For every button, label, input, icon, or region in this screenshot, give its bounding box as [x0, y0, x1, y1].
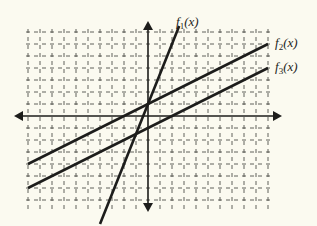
label-f1: f1(x): [176, 14, 199, 31]
function-labels: f1(x)f2(x)f3(x): [176, 14, 298, 76]
label-f3: f3(x): [275, 59, 298, 76]
label-f2: f2(x): [275, 35, 298, 52]
y-axis-up-arrow-icon: [143, 21, 153, 30]
x-axis-left-arrow-icon: [14, 111, 23, 121]
function-graph: f1(x)f2(x)f3(x): [0, 0, 317, 226]
axes: [14, 21, 282, 212]
y-axis-down-arrow-icon: [143, 203, 153, 212]
grid-lines: [26, 29, 272, 211]
x-axis-right-arrow-icon: [273, 111, 282, 121]
